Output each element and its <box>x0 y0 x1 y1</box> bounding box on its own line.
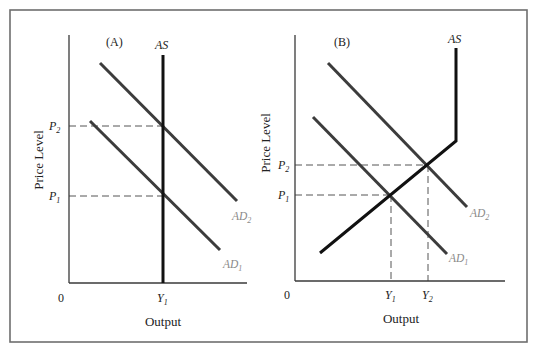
y-axis-title-b: Price Level <box>258 113 273 173</box>
ad2-label-a: AD2 <box>231 210 251 225</box>
ad1-label-a: AD1 <box>222 258 242 273</box>
ad2-curve-b <box>328 63 467 207</box>
y2-label-b: Y2 <box>422 288 433 304</box>
panel-title-b: (B) <box>334 35 350 49</box>
panel-title-a: (A) <box>106 35 123 49</box>
ad2-label-b: AD2 <box>469 207 489 222</box>
x-axis-title-a: Output <box>145 314 182 329</box>
y1-label-a: Y1 <box>157 291 168 307</box>
origin-label-a: 0 <box>58 291 64 305</box>
ad2-curve-a <box>100 63 237 201</box>
aggregate-demand-supply-figure: (A) AS P2 P1 AD2 AD1 0 Y1 Output Price L… <box>0 0 537 350</box>
p2-label-b: P2 <box>277 158 289 174</box>
as-label-b: AS <box>447 32 461 46</box>
ad1-curve-a <box>90 121 220 250</box>
p2-label-a: P2 <box>48 119 60 135</box>
origin-label-b: 0 <box>284 288 290 302</box>
y-axis-title-a: Price Level <box>31 130 46 190</box>
y1-label-b: Y1 <box>385 288 396 304</box>
x-axis-title-b: Output <box>383 311 420 326</box>
p1-label-b: P1 <box>277 188 289 204</box>
as-curve-b <box>320 48 456 253</box>
panel-b: (B) AS P2 P1 AD2 AD1 0 Y1 Y2 Output Pric… <box>258 32 505 326</box>
p1-label-a: P1 <box>48 189 60 205</box>
as-label-a: AS <box>154 38 168 52</box>
figure-frame <box>10 10 527 342</box>
ad1-label-b: AD1 <box>448 252 468 267</box>
ad1-curve-b <box>313 117 447 254</box>
panel-a: (A) AS P2 P1 AD2 AD1 0 Y1 Output Price L… <box>31 35 251 329</box>
